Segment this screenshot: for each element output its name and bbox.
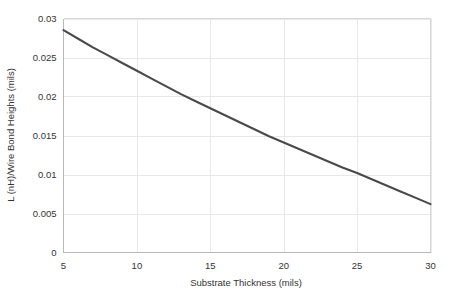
y-tick-label: 0.015 [33,130,57,141]
x-tick-label: 15 [205,260,216,271]
chart-container: 51015202530 00.0050.010.0150.020.0250.03… [0,0,450,298]
x-axis-title: Substrate Thickness (mils) [190,277,302,288]
x-tick-label: 5 [61,260,66,271]
x-tick-label: 10 [132,260,143,271]
y-tick-label: 0.02 [38,91,57,102]
y-tick-label: 0.005 [33,208,57,219]
chart-background [0,0,450,298]
y-tick-label: 0 [51,247,56,258]
y-axis-title: L (nH)/Wire Bond Heights (mils) [5,68,16,202]
y-tick-label: 0.01 [38,169,57,180]
y-tick-label: 0.025 [33,52,57,63]
x-tick-label: 20 [278,260,289,271]
line-chart: 51015202530 00.0050.010.0150.020.0250.03… [0,0,450,298]
x-tick-label: 30 [425,260,436,271]
x-tick-label: 25 [352,260,363,271]
y-tick-label: 0.03 [38,13,57,24]
